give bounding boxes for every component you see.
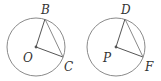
label-p: P	[102, 51, 112, 65]
label-b: B	[40, 3, 50, 17]
radius-pd	[116, 19, 125, 47]
label-o: O	[23, 51, 33, 65]
geometry-diagram: B O C D P F	[0, 0, 161, 81]
center-point-p	[115, 46, 118, 49]
label-d: D	[120, 3, 131, 17]
label-c: C	[64, 60, 73, 74]
radius-ob	[36, 19, 45, 47]
label-f: F	[144, 60, 154, 74]
center-point-o	[35, 46, 38, 49]
right-circle-figure: D P F	[87, 3, 154, 76]
left-circle-figure: B O C	[7, 3, 73, 76]
